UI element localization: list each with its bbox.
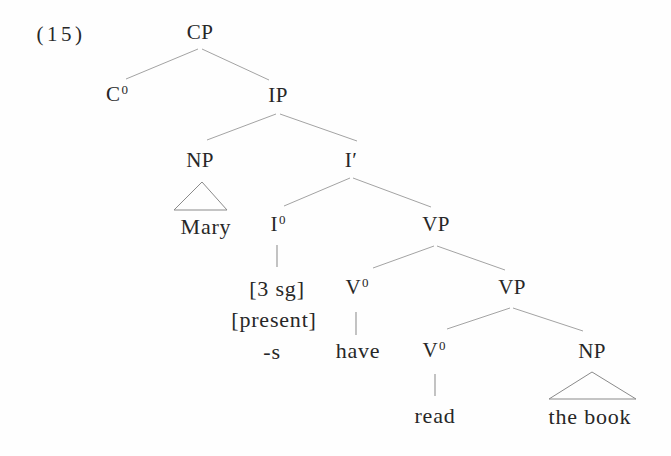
node-v0-aux-base: V: [345, 275, 361, 299]
node-v0-main-sup: 0: [439, 339, 446, 353]
terminal-read-label: read: [414, 403, 455, 428]
triangle-the-book: [549, 372, 636, 399]
node-c0-sup: 0: [121, 83, 128, 97]
edge-ibar-i0: [284, 178, 350, 206]
edge-ip-np: [207, 114, 276, 140]
tree-edges-layer: [0, 0, 671, 456]
node-i0: I0: [271, 213, 286, 236]
edge-ip-ibar: [280, 114, 357, 141]
terminal-i0-feature-tense-label: [present]: [231, 307, 316, 332]
terminal-mary-label: Mary: [181, 214, 232, 239]
node-c0: C0: [106, 83, 128, 106]
terminal-i0-feature-person: [3 sg]: [249, 277, 305, 301]
scanned-syntax-tree-figure: (15) CP C0 IP NP I′ Mary I0 VP [3 sg] [p…: [0, 0, 671, 456]
node-cp: CP: [187, 21, 214, 44]
triangle-mary: [174, 182, 227, 210]
node-vp-lower: VP: [498, 276, 526, 299]
terminal-have: have: [336, 339, 381, 363]
edge-vp-lower-np: [513, 308, 583, 331]
node-i-bar-label: I′: [345, 148, 357, 172]
terminal-read: read: [414, 404, 455, 428]
node-v0-main: V0: [422, 339, 445, 362]
terminal-i0-affix: -s: [263, 340, 281, 364]
node-vp-lower-label: VP: [498, 275, 526, 299]
node-vp-upper-label: VP: [422, 212, 450, 236]
node-v0-aux-sup: 0: [362, 276, 369, 290]
node-np-object-label: NP: [578, 339, 606, 363]
node-i0-sup: 0: [279, 213, 286, 227]
edge-cp-c0: [126, 49, 198, 79]
node-ip: IP: [268, 84, 287, 107]
node-np-object: NP: [578, 340, 606, 363]
edge-vp-upper-vp-lower: [437, 246, 505, 270]
edge-ibar-vp: [353, 178, 431, 207]
example-number: (15): [37, 23, 86, 46]
node-cp-label: CP: [187, 20, 214, 44]
node-c0-base: C: [106, 82, 120, 106]
terminal-have-label: have: [336, 338, 381, 363]
edge-cp-ip: [202, 49, 269, 80]
node-v0-main-base: V: [422, 338, 438, 362]
terminal-i0-feature-person-label: [3 sg]: [249, 276, 305, 301]
terminal-mary: Mary: [181, 215, 232, 239]
node-np-subject-label: NP: [186, 148, 214, 172]
node-i-bar: I′: [345, 149, 357, 172]
node-i0-base: I: [271, 212, 278, 236]
edge-vp-lower-v0: [447, 308, 510, 329]
terminal-the-book: the book: [549, 405, 632, 429]
node-np-subject: NP: [186, 149, 214, 172]
node-vp-upper: VP: [422, 213, 450, 236]
node-v0-aux: V0: [345, 276, 368, 299]
node-ip-label: IP: [268, 83, 287, 107]
terminal-i0-feature-tense: [present]: [231, 308, 316, 332]
edge-vp-upper-v0: [373, 246, 434, 268]
terminal-i0-affix-label: -s: [263, 339, 281, 364]
terminal-the-book-label: the book: [549, 404, 632, 429]
